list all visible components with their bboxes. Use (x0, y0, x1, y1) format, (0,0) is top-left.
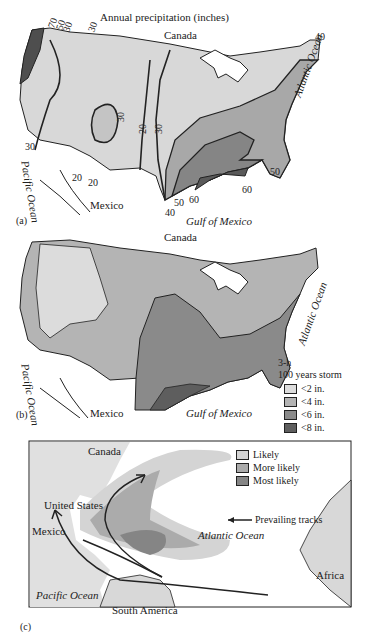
panel-tag: (c) (20, 622, 31, 632)
legend-label: <6 in. (301, 409, 324, 420)
canada-label: Canada (164, 30, 197, 41)
isoline-label: 50 (174, 198, 184, 208)
legend-swatch (284, 410, 297, 420)
legend-item: Most likely (236, 474, 300, 487)
isoline-label: 50 (270, 167, 280, 177)
legend-item: More likely (236, 461, 300, 474)
isoline-label: 60 (189, 195, 199, 205)
isoline-label: 60 (242, 185, 252, 195)
mexico-label: Mexico (90, 408, 124, 419)
legend-swatch (236, 476, 249, 486)
panel-tag: (b) (16, 410, 28, 420)
south-america-label: South America (112, 605, 178, 616)
isoline-label: 40 (165, 208, 175, 218)
legend-swatch (284, 384, 297, 394)
panel-tag: (a) (16, 216, 27, 226)
gulf-of-mexico-label: Gulf of Mexico (186, 216, 252, 227)
legend-item: <6 in. (284, 408, 342, 421)
legend-label: More likely (253, 462, 300, 473)
canada-label: Canada (164, 232, 197, 243)
isoline-label: 30 (25, 142, 35, 152)
legend-title: 3-h (278, 358, 342, 368)
legend-swatch (284, 397, 297, 407)
isoline-label: 20 (88, 178, 98, 188)
canada-label: Canada (88, 446, 121, 457)
panel-a-title: Annual precipitation (inches) (100, 12, 229, 23)
legend-item: Likely (236, 448, 300, 461)
pacific-ocean-label: Pacific Ocean (36, 590, 99, 601)
legend-swatch (236, 463, 249, 473)
isoline-label: 30 (154, 124, 164, 134)
panel-c-hurricane-map: Canada United States Mexico Atlantic Oce… (0, 440, 366, 632)
legend-subtitle: 100 years storm (278, 370, 342, 380)
legend-swatch (236, 450, 249, 460)
legend-item: <2 in. (284, 382, 342, 395)
isoline-label: 20 (138, 124, 148, 134)
panel-b-storm-map: Canada Atlantic Ocean Pacific Ocean Mexi… (0, 228, 366, 418)
isoline-label: 20 (72, 173, 82, 183)
africa-label: Africa (316, 570, 344, 581)
mexico-label: Mexico (32, 526, 66, 537)
isoline-label: 40 (315, 32, 325, 42)
legend-item: <4 in. (284, 395, 342, 408)
atlantic-ocean-label: Atlantic Ocean (198, 530, 264, 541)
gulf-of-mexico-label: Gulf of Mexico (186, 408, 252, 419)
legend-label: <2 in. (301, 383, 324, 394)
isoline-label: 30 (116, 112, 126, 122)
mexico-label: Mexico (90, 200, 124, 211)
storm-legend: 3-h 100 years storm <2 in. <4 in. <6 in.… (278, 358, 342, 434)
united-states-label: United States (44, 500, 103, 511)
legend-swatch (284, 423, 297, 433)
legend-label: Most likely (253, 475, 299, 486)
panel-a-precipitation-map: Annual precipitation (inches) Canada Atl… (0, 0, 366, 215)
hurricane-legend: Likely More likely Most likely (236, 448, 300, 487)
legend-label: <4 in. (301, 396, 324, 407)
legend-label: <8 in. (301, 422, 324, 433)
legend-item: <8 in. (284, 421, 342, 434)
legend-label: Likely (253, 449, 279, 460)
prevailing-tracks-label: Prevailing tracks (255, 515, 322, 525)
